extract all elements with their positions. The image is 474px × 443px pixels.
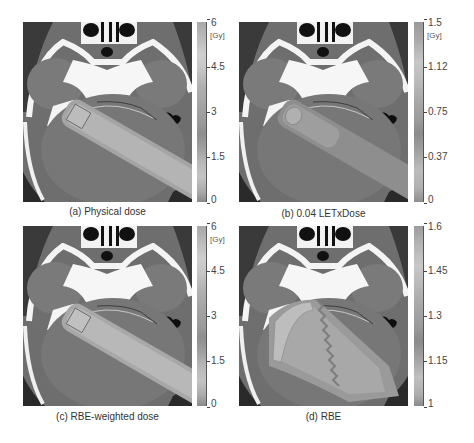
colorbar-unit: [Gy] — [427, 31, 442, 40]
colorbar-tick: 1.12 — [428, 62, 447, 72]
colorbar-tick: 0 — [211, 195, 217, 205]
ct-dose-map — [23, 22, 192, 202]
panel-let-dose-image — [239, 22, 408, 202]
colorbar-tick: 1 — [428, 399, 434, 409]
ct-rbe-dose-map — [23, 226, 192, 406]
colorbar-tick: 1.45 — [428, 266, 447, 276]
caption-physical-dose: (a) Physical dose — [23, 206, 192, 217]
colorbar-unit: [Gy] — [210, 31, 225, 40]
colorbar-tick: 6 — [211, 18, 217, 28]
panel-rbe-weighted-dose-image — [23, 226, 192, 406]
caption-rbe-weighted-dose: (c) RBE-weighted dose — [23, 411, 192, 422]
colorbar-let-dose — [414, 22, 423, 202]
colorbar-tick: 0 — [211, 399, 217, 409]
caption-let-dose: (b) 0.04 LETxDose — [239, 208, 408, 219]
colorbar-tick: 4.5 — [211, 266, 225, 276]
ct-let-map — [239, 22, 408, 202]
colorbar-tick: 1.15 — [428, 356, 447, 366]
colorbar-tick: 0 — [428, 195, 434, 205]
panel-physical-dose-image — [23, 22, 192, 202]
colorbar-physical-dose — [197, 22, 206, 202]
colorbar-tick: 0.75 — [428, 107, 447, 117]
colorbar-rbe-weighted-dose — [197, 226, 206, 406]
colorbar-tick: 1.5 — [211, 152, 225, 162]
colorbar-tick: 6 — [211, 222, 217, 232]
ct-rbe-map — [239, 226, 408, 406]
colorbar-tick: 1.5 — [428, 18, 442, 28]
colorbar-tick: 0.37 — [428, 152, 447, 162]
colorbar-tick: 3 — [211, 311, 217, 321]
colorbar-unit: [Gy] — [210, 235, 225, 244]
caption-rbe: (d) RBE — [239, 411, 408, 422]
colorbar-tick: 1.5 — [211, 356, 225, 366]
colorbar-rbe — [414, 226, 423, 406]
colorbar-tick: 1.6 — [428, 222, 442, 232]
colorbar-tick: 3 — [211, 107, 217, 117]
panel-rbe-image — [239, 226, 408, 406]
colorbar-tick: 4.5 — [211, 62, 225, 72]
colorbar-tick: 1.3 — [428, 311, 442, 321]
